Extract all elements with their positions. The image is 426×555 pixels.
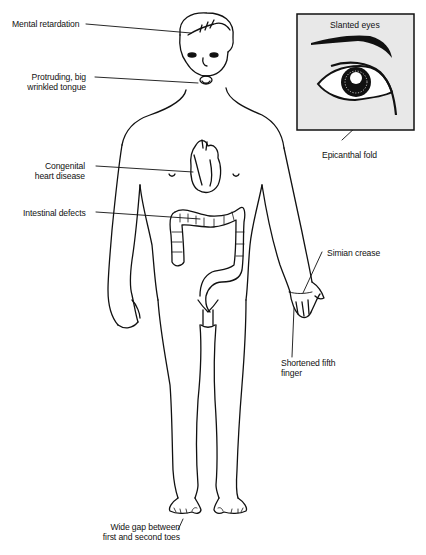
- label-heart: Congenital heart disease: [30, 161, 85, 181]
- label-mental-retardation: Mental retardation: [12, 19, 79, 29]
- leader-finger: [292, 308, 294, 357]
- right-shoulder: [226, 88, 284, 148]
- intestine-icon: [170, 207, 245, 312]
- inset-title: Slanted eyes: [330, 20, 380, 30]
- label-tongue-line2: wrinkled tongue: [22, 82, 86, 92]
- slanted-eyes-inset: [297, 14, 414, 130]
- label-heart-line1: Congenital: [30, 161, 85, 171]
- label-epicanthal-fold: Epicanthal fold: [322, 150, 377, 160]
- leader-mental: [86, 24, 191, 33]
- leader-simian: [303, 252, 322, 293]
- label-intestinal-defects: Intestinal defects: [23, 208, 86, 218]
- heart-icon: [191, 140, 221, 192]
- label-tongue: Protruding, big wrinkled tongue: [22, 72, 86, 92]
- label-simian-crease: Simian crease: [327, 248, 380, 258]
- label-heart-line2: heart disease: [30, 171, 85, 181]
- right-foot-icon: [214, 498, 247, 513]
- left-shoulder: [122, 90, 186, 145]
- leader-heart: [96, 166, 193, 172]
- label-toes-line2: first and second toes: [90, 532, 180, 542]
- left-foot-icon: [169, 498, 201, 513]
- label-shortened-finger: Shortened fifth finger: [281, 358, 335, 378]
- label-finger-line1: Shortened fifth: [281, 358, 335, 368]
- label-toes-gap: Wide gap between first and second toes: [90, 522, 180, 542]
- label-toes-line1: Wide gap between: [90, 522, 180, 532]
- leader-intestine: [96, 212, 200, 219]
- leader-tongue: [95, 77, 198, 83]
- label-tongue-line1: Protruding, big: [22, 72, 86, 82]
- head-icon: [180, 13, 233, 84]
- label-finger-line2: finger: [281, 368, 335, 378]
- diagram-canvas: Mental retardation Protruding, big wrink…: [0, 0, 426, 555]
